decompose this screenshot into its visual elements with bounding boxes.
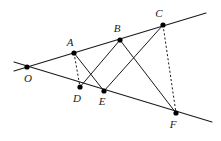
point-label-o: O — [24, 72, 32, 84]
point-label-b: B — [114, 22, 121, 34]
ray-O-through-D-E-F — [14, 62, 212, 122]
ray-O-through-A-B-C — [14, 13, 206, 71]
segment-C-F — [163, 25, 176, 113]
vertex-dot-a — [71, 50, 76, 55]
segments-group — [74, 25, 176, 113]
point-label-e: E — [98, 95, 106, 107]
vertex-dot-d — [77, 84, 82, 89]
vertex-dot-c — [160, 22, 165, 27]
vertex-dot-e — [101, 88, 106, 93]
vertex-dot-o — [24, 64, 29, 69]
segment-B-F — [120, 40, 176, 113]
vertex-dot-b — [117, 37, 122, 42]
vertex-dot-f — [173, 110, 178, 115]
point-label-d: D — [72, 92, 81, 104]
geometry-canvas: OABCDEF — [0, 0, 221, 141]
point-labels-group: OABCDEF — [24, 7, 177, 130]
point-label-a: A — [66, 36, 74, 48]
geometry-figure: OABCDEF — [0, 0, 221, 141]
point-label-c: C — [155, 7, 163, 19]
point-label-f: F — [169, 118, 177, 130]
